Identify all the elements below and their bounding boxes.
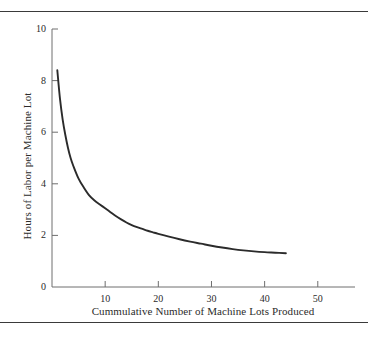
learning-curve-chart [0, 0, 368, 337]
data-curve-group [57, 70, 286, 253]
x-tick-label: 50 [306, 294, 330, 304]
learning-curve-line [57, 70, 286, 253]
y-tick-label: 0 [24, 282, 46, 292]
y-tick-label: 10 [24, 24, 46, 34]
figure-container: 02468101020304050 Hours of Labor per Mac… [0, 0, 368, 337]
x-tick-label: 20 [146, 294, 170, 304]
y-axis-title: Hours of Labor per Machine Lot [21, 56, 33, 276]
axes-group [52, 29, 355, 287]
x-tick-label: 40 [253, 294, 277, 304]
x-tick-label: 10 [93, 294, 117, 304]
x-axis-title: Cummulative Number of Machine Lots Produ… [48, 305, 358, 317]
x-tick-label: 30 [199, 294, 223, 304]
tick-marks-group [52, 29, 318, 287]
